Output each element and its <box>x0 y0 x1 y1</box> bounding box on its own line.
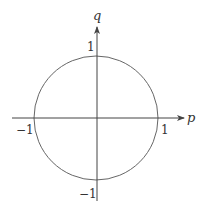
p-tick-pos: 1 <box>161 123 169 137</box>
q-tick-pos: 1 <box>87 40 95 54</box>
p-tick-neg: −1 <box>16 123 34 137</box>
q-tick-neg: −1 <box>79 187 97 201</box>
q-axis-label: q <box>93 8 101 23</box>
p-axis-label: p <box>187 110 196 125</box>
phase-plane-diagram: q p 1 −1 −1 1 <box>0 0 203 210</box>
